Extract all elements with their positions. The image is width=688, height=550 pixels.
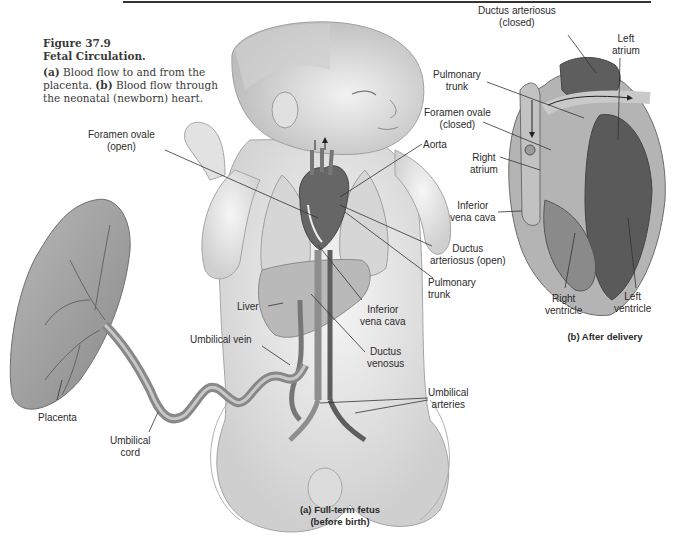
label-line: trunk [428,289,476,301]
label-line: Inferior [450,200,496,212]
label-placenta: Placenta [38,412,77,424]
label-line: ventricle [614,303,651,315]
label-line: trunk [433,81,481,93]
label-line: Pulmonary [433,69,481,81]
label-foramen-ovale-closed: Foramen ovale (closed) [424,107,491,131]
label-line: Right [470,152,498,164]
label-line: Left [614,291,651,303]
label-ductus-arteriosus-closed: Ductus arteriosus (closed) [478,5,556,29]
label-inferior-vena-cava-a: Inferior vena cava [360,304,406,328]
label-line: Inferior [360,304,406,316]
label-line: (open) [88,141,155,153]
label-line: Right [545,293,582,305]
label-line: vena cava [450,212,496,224]
label-line: Ductus [367,346,404,358]
label-line: atrium [612,45,640,57]
label-line: Umbilical [110,435,151,447]
label-line: (closed) [478,17,556,29]
label-line: Left [612,33,640,45]
label-aorta: Aorta [423,139,447,151]
label-line: Ductus arteriosus [478,5,556,17]
label-liver: Liver [237,301,259,313]
panel-b-title: (b) After delivery [545,331,665,343]
label-foramen-ovale-open: Foramen ovale (open) [88,129,155,153]
label-ductus-venosus: Ductus venosus [367,346,404,370]
label-line: venosus [367,358,404,370]
label-left-ventricle: Left ventricle [614,291,651,315]
label-line: ventricle [545,305,582,317]
label-line: cord [110,447,151,459]
label-right-atrium: Right atrium [470,152,498,176]
label-line: Foramen ovale [424,107,491,119]
label-line: Ductus [430,243,506,255]
label-umbilical-arteries: Umbilical arteries [428,387,469,411]
label-line: (closed) [424,119,491,131]
label-line: arteriosus (open) [430,255,506,267]
label-right-ventricle: Right ventricle [545,293,582,317]
label-umbilical-vein: Umbilical vein [190,334,252,346]
panel-title-line: (before birth) [270,516,410,528]
label-pulmonary-trunk-a: Pulmonary trunk [428,277,476,301]
label-inferior-vena-cava-b: Inferior vena cava [450,200,496,224]
label-line: arteries [428,399,469,411]
label-line: vena cava [360,316,406,328]
label-umbilical-cord: Umbilical cord [110,435,151,459]
panel-title-line: (a) Full-term fetus [270,504,410,516]
neonatal-heart [509,58,666,316]
panel-a-title: (a) Full-term fetus (before birth) [270,504,410,528]
label-line: atrium [470,164,498,176]
label-line: Foramen ovale [88,129,155,141]
illustration [0,0,688,550]
label-left-atrium: Left atrium [612,33,640,57]
label-pulmonary-trunk-b: Pulmonary trunk [433,69,481,93]
label-line: Umbilical [428,387,469,399]
label-ductus-arteriosus-open: Ductus arteriosus (open) [430,243,506,267]
label-line: Pulmonary [428,277,476,289]
